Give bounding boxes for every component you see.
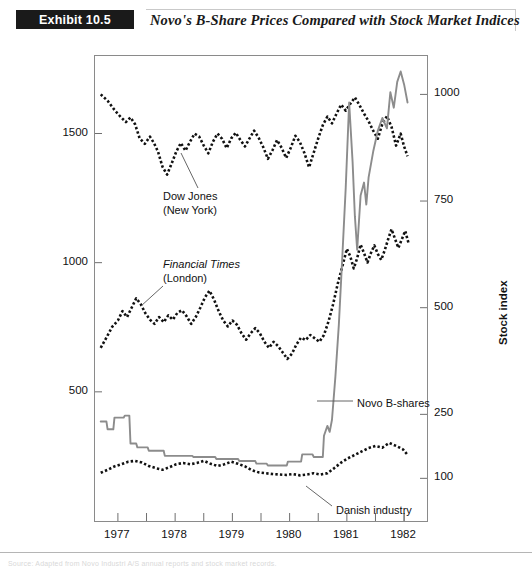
novo-b-shares-label: Novo B-shares <box>357 397 430 411</box>
chart-canvas <box>95 56 427 521</box>
y-axis-tick-label: 1500 <box>44 126 88 138</box>
y-axis-tick-label: 1000 <box>44 255 88 267</box>
y2-axis-title: Stock index <box>497 280 509 345</box>
series-line-financial-times-london <box>101 229 409 359</box>
danish-industry-label: Danish industry <box>336 504 412 518</box>
x-axis-tick-label: 1978 <box>151 528 197 540</box>
series-line-dow-jones-new-york <box>101 94 408 174</box>
chart-plot-area <box>94 55 428 522</box>
exhibit-page: Exhibit 10.5 Novo's B-Share Prices Compa… <box>0 0 532 570</box>
financial-times-leader <box>141 286 163 306</box>
y2-axis-tick-label: 250 <box>434 406 478 418</box>
x-axis-tick-label: 1981 <box>323 528 369 540</box>
x-axis-tick-label: 1979 <box>208 528 254 540</box>
y2-axis-tick-label: 1000 <box>434 86 478 98</box>
dow-jones-leader <box>181 153 198 188</box>
exhibit-title: Novo's B-Share Prices Compared with Stoc… <box>150 12 520 29</box>
header-divider <box>146 9 516 10</box>
danish-industry-leader <box>306 486 332 506</box>
exhibit-number-badge: Exhibit 10.5 <box>16 10 134 29</box>
y2-axis-tick-label: 750 <box>434 193 478 205</box>
y-axis-tick-label: 500 <box>44 384 88 396</box>
y2-axis-tick-label: 100 <box>434 470 478 482</box>
exhibit-header: Exhibit 10.5 Novo's B-Share Prices Compa… <box>0 0 532 40</box>
dow-jones-label: Dow Jones(New York) <box>163 190 217 217</box>
footer-divider <box>0 552 532 553</box>
x-axis-tick-label: 1980 <box>266 528 312 540</box>
x-axis-tick-label: 1982 <box>380 528 426 540</box>
x-axis-tick-label: 1977 <box>94 528 140 540</box>
source-note: Source: Adapted from Novo Industri A/S a… <box>8 560 277 567</box>
y2-axis-tick-label: 500 <box>434 300 478 312</box>
financial-times-label: Financial Times(London) <box>163 258 240 285</box>
